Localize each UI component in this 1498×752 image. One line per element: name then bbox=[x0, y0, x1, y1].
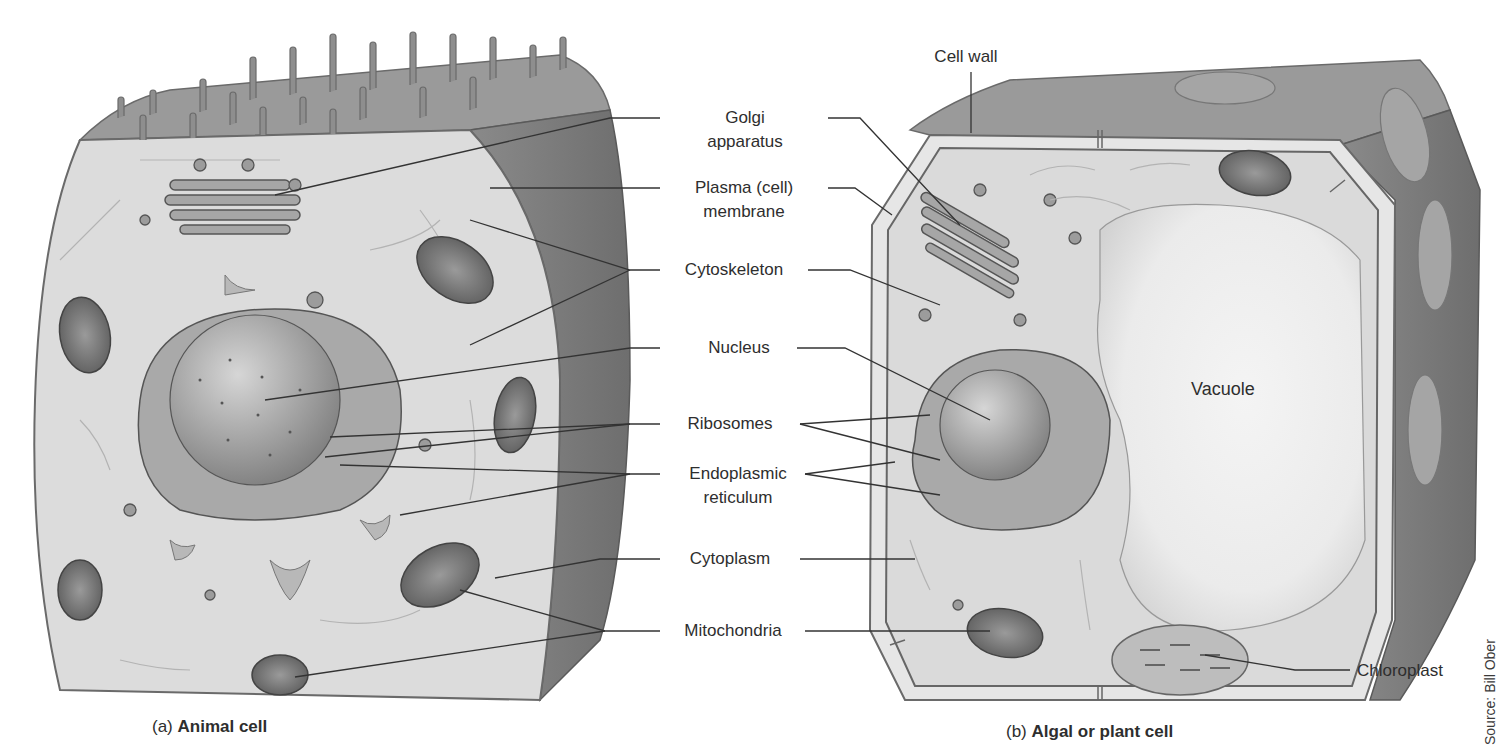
label-nucleus: Nucleus bbox=[708, 337, 769, 358]
label-chloroplast: Chloroplast bbox=[1357, 660, 1443, 681]
plant-cell-artwork bbox=[870, 60, 1480, 700]
cell-comparison-diagram: Cell wall Golgi apparatus Plasma (cell) … bbox=[0, 0, 1498, 752]
caption-animal-cell: (a) Animal cell bbox=[152, 717, 267, 737]
caption-animal-prefix: (a) bbox=[152, 717, 173, 736]
label-vacuole: Vacuole bbox=[1191, 379, 1255, 400]
label-cytoskeleton: Cytoskeleton bbox=[685, 259, 783, 280]
caption-animal-title: Animal cell bbox=[178, 717, 268, 736]
label-cytoplasm: Cytoplasm bbox=[690, 548, 770, 569]
label-golgi-line1: Golgi bbox=[725, 107, 765, 128]
label-plasma-line2: membrane bbox=[703, 201, 784, 222]
label-ribosomes: Ribosomes bbox=[687, 413, 772, 434]
label-mitochondria: Mitochondria bbox=[684, 620, 781, 641]
label-er-line1: Endoplasmic bbox=[689, 463, 786, 484]
caption-plant-prefix: (b) bbox=[1006, 722, 1027, 741]
label-plasma-line1: Plasma (cell) bbox=[695, 177, 793, 198]
caption-plant-cell: (b) Algal or plant cell bbox=[1006, 722, 1173, 742]
caption-plant-title: Algal or plant cell bbox=[1032, 722, 1174, 741]
label-cell-wall: Cell wall bbox=[934, 46, 997, 67]
label-er-line2: reticulum bbox=[704, 487, 773, 508]
source-credit: Source: Bill Ober bbox=[1482, 639, 1498, 745]
animal-cell-artwork bbox=[34, 32, 630, 700]
label-golgi-line2: apparatus bbox=[707, 131, 783, 152]
